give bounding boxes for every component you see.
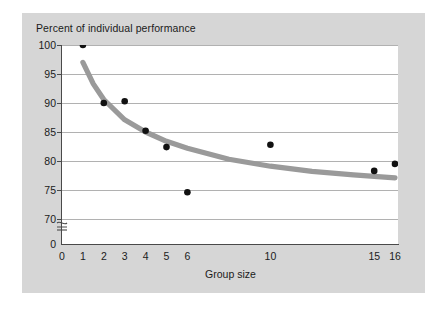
y-tick-label: 100: [22, 39, 56, 51]
x-axis-line: [61, 244, 399, 245]
y-tick-label: 95: [22, 68, 56, 80]
chart-figure: Percent of individual performance 100959…: [0, 0, 447, 309]
y-tick-mark: [57, 45, 62, 46]
y-tick-label: 85: [22, 126, 56, 138]
x-axis-title-label: Group size: [205, 268, 256, 280]
x-tick-label: 6: [175, 250, 199, 262]
y-tick-mark: [57, 190, 62, 191]
chart-title: Percent of individual performance: [36, 22, 196, 34]
x-axis-title: Group size: [0, 268, 447, 280]
x-tick-label: 16: [383, 250, 407, 262]
x-tick-label: 10: [258, 250, 282, 262]
y-tick-label: 90: [22, 97, 56, 109]
y-tick-label: 0: [22, 238, 56, 250]
y-tick-label: 80: [22, 155, 56, 167]
y-tick-mark: [57, 74, 62, 75]
plot-area: [62, 45, 398, 245]
axis-break-icon: [55, 218, 69, 234]
y-tick-mark: [57, 103, 62, 104]
plot-canvas: [62, 45, 398, 245]
y-tick-label: 75: [22, 184, 56, 196]
y-tick-mark: [57, 161, 62, 162]
y-tick-label: 70: [22, 213, 56, 225]
y-tick-mark: [57, 132, 62, 133]
